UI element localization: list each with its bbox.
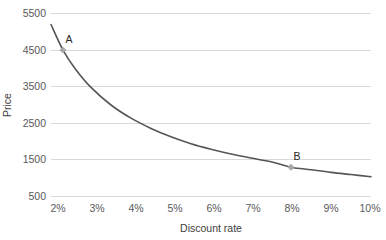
y-tick-label-2500: 2500 (23, 117, 47, 129)
annotation-layer: AB (60, 33, 301, 170)
x-tick-label-6: 6% (206, 202, 221, 214)
x-tick-label-2: 2% (50, 202, 65, 214)
y-axis-tick-labels: 5500 4500 3500 2500 1500 500 (23, 7, 47, 202)
x-tick-label-3: 3% (89, 202, 104, 214)
y-tick-label-3500: 3500 (23, 80, 47, 92)
x-tick-label-10: 10% (359, 202, 380, 214)
price-curve (51, 24, 371, 176)
x-tick-label-4: 4% (128, 202, 143, 214)
x-axis-title: Discount rate (180, 222, 242, 234)
y-tick-label-1500: 1500 (23, 153, 47, 165)
data-point-marker-a (60, 47, 66, 53)
gridlines (51, 14, 371, 197)
y-axis-title: Price (1, 93, 13, 117)
x-tick-label-8: 8% (284, 202, 299, 214)
data-point-marker-b (288, 164, 294, 170)
data-point-label-b: B (293, 150, 300, 162)
x-tick-label-9: 9% (323, 202, 338, 214)
chart-container: 5500 4500 3500 2500 1500 500 2% 3% 4% 5%… (0, 0, 386, 240)
x-tick-label-7: 7% (245, 202, 260, 214)
y-tick-label-5500: 5500 (23, 7, 47, 19)
data-point-label-a: A (65, 33, 72, 45)
x-axis-tick-labels: 2% 3% 4% 5% 6% 7% 8% 9% 10% (50, 202, 380, 214)
y-tick-label-4500: 4500 (23, 44, 47, 56)
y-tick-label-500: 500 (28, 190, 46, 202)
x-tick-label-5: 5% (167, 202, 182, 214)
price-vs-discount-rate-chart: 5500 4500 3500 2500 1500 500 2% 3% 4% 5%… (0, 0, 386, 240)
